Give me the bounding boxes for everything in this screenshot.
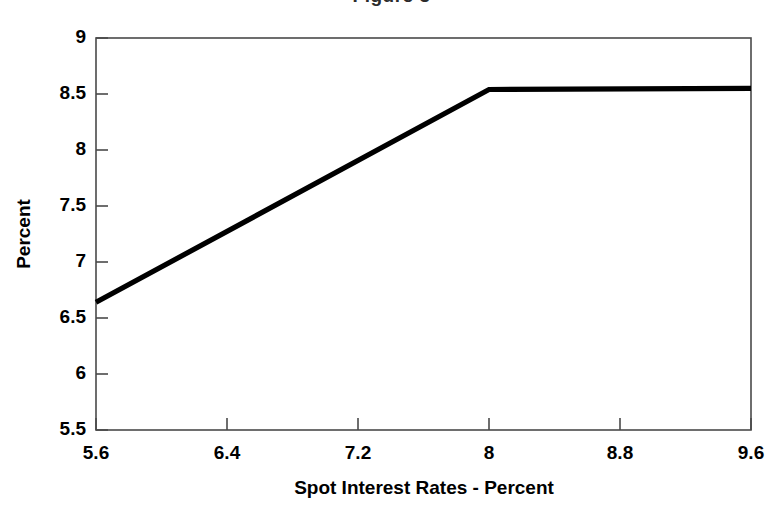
y-tick-label: 6.5 [60,306,87,327]
x-tick-label: 6.4 [214,442,241,463]
y-tick-label: 7 [75,250,86,271]
y-tick-label: 8.5 [60,82,87,103]
y-axis-title: Percent [13,198,34,268]
data-series-line [96,88,751,302]
y-tick-label: 6 [75,362,86,383]
x-tick-label: 7.2 [345,442,371,463]
y-tick-label: 9 [75,26,86,47]
x-tick-label: 8.8 [607,442,633,463]
line-chart-plot: 9 8.5 8 7.5 7 6.5 6 5.5 5.6 6.4 7.2 8 8.… [0,0,783,522]
x-tick-label: 9.6 [738,442,764,463]
chart-figure: Figure 3 9 8.5 8 [0,0,783,522]
x-axis-ticks [96,418,751,430]
x-axis-tick-labels: 5.6 6.4 7.2 8 8.8 9.6 [83,442,764,463]
y-axis-ticks [96,38,108,430]
x-axis-title: Spot Interest Rates - Percent [294,477,554,498]
plot-frame [96,38,751,430]
y-tick-label: 5.5 [60,418,87,439]
y-axis-tick-labels: 9 8.5 8 7.5 7 6.5 6 5.5 [60,26,87,439]
x-tick-label: 8 [484,442,495,463]
x-tick-label: 5.6 [83,442,109,463]
y-tick-label: 7.5 [60,194,87,215]
y-tick-label: 8 [75,138,86,159]
